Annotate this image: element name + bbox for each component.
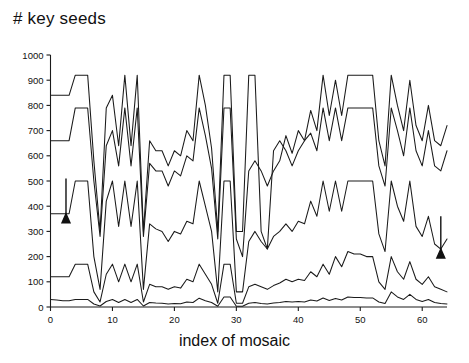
- x-tick-label: 40: [293, 314, 304, 325]
- x-axis-ticks: 0102030405060: [48, 307, 428, 325]
- x-tick-label: 20: [169, 314, 180, 325]
- series-line-series-4: [51, 252, 448, 304]
- x-tick-label: 30: [231, 314, 242, 325]
- data-series-group: [51, 75, 448, 306]
- annotation-left-arrow: [62, 178, 70, 222]
- chart-plot-area: 01002003004005006007008009001000 0102030…: [0, 0, 469, 363]
- y-tick-label: 800: [28, 100, 44, 111]
- y-tick-label: 300: [28, 226, 44, 237]
- x-tick-label: 50: [355, 314, 366, 325]
- arrow-head: [62, 214, 70, 223]
- y-tick-label: 900: [28, 75, 44, 86]
- x-tick-label: 10: [107, 314, 118, 325]
- y-axis-ticks: 01002003004005006007008009001000: [22, 50, 50, 313]
- y-tick-label: 600: [28, 150, 44, 161]
- arrow-head: [437, 249, 445, 258]
- x-tick-label: 60: [417, 314, 428, 325]
- y-tick-label: 700: [28, 125, 44, 136]
- series-line-series-5: [51, 292, 448, 306]
- y-tick-label: 200: [28, 251, 44, 262]
- annotation-right-arrow: [437, 216, 445, 258]
- x-axis-label: index of mosaic: [0, 332, 469, 350]
- y-tick-label: 100: [28, 276, 44, 287]
- y-tick-label: 500: [28, 176, 44, 187]
- chart-figure: # key seeds 0100200300400500600700800900…: [0, 0, 469, 363]
- x-tick-label: 0: [48, 314, 53, 325]
- y-tick-label: 0: [38, 302, 43, 313]
- y-tick-label: 400: [28, 201, 44, 212]
- y-tick-label: 1000: [22, 50, 43, 61]
